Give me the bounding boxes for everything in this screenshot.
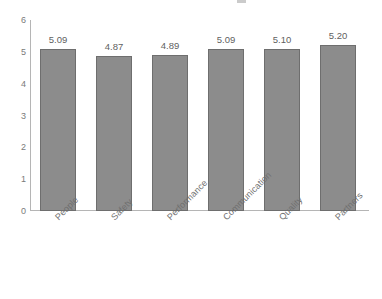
y-axis-tick-label: 5	[2, 47, 26, 56]
y-axis-tick-labels: 0123456	[0, 20, 26, 211]
y-axis-tick-label: 3	[2, 111, 26, 120]
bar-value-label: 4.87	[105, 42, 124, 52]
bar-value-label: 5.09	[217, 35, 236, 45]
bar-value-label: 5.10	[273, 35, 292, 45]
bar[interactable]	[40, 49, 76, 211]
y-axis-tick-label: 1	[2, 175, 26, 184]
bar[interactable]	[152, 55, 188, 211]
bar[interactable]	[264, 49, 300, 211]
bar[interactable]	[208, 49, 244, 211]
bar-value-label: 4.89	[161, 41, 180, 51]
cropped-title-artifact	[237, 0, 246, 3]
bar-value-label: 5.09	[49, 35, 68, 45]
y-axis-tick-label: 6	[2, 16, 26, 25]
bar[interactable]	[320, 45, 356, 211]
bar-value-label: 5.20	[329, 31, 348, 41]
bar[interactable]	[96, 56, 132, 211]
y-axis-tick-label: 2	[2, 143, 26, 152]
bar-chart: 0123456 5.094.874.895.095.105.20 PeopleS…	[0, 0, 382, 299]
y-axis-tick-label: 0	[2, 207, 26, 216]
y-axis-tick-label: 4	[2, 79, 26, 88]
